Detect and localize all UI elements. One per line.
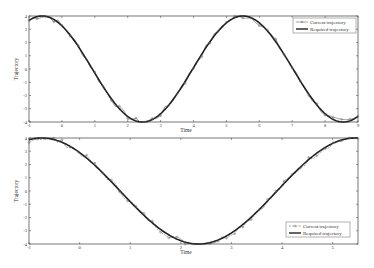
top-plot-panel: -1012345678943210-1-2-3-4 Time Trajector… xyxy=(13,14,360,134)
bottom-plot-panel: -101234543210-1-2-3-4 Time Trajectory Cu… xyxy=(13,136,359,256)
top-legend-current-label: Current trajectory xyxy=(310,20,346,25)
current-trajectory-marker xyxy=(143,212,145,214)
bottom-legend: Current trajectory Required trajectory xyxy=(286,222,350,237)
x-tick-label: 2 xyxy=(127,123,129,128)
y-tick-label: -3 xyxy=(23,228,27,233)
y-tick-label: 0 xyxy=(25,189,28,194)
current-trajectory-marker xyxy=(160,231,162,233)
top-x-axis-label: Time xyxy=(180,127,192,133)
top-legend-required-label: Required trajectory xyxy=(310,27,349,32)
y-tick-label: -3 xyxy=(23,106,27,111)
x-tick-label: 6 xyxy=(258,123,261,128)
y-tick-label: 4 xyxy=(25,136,28,141)
trajectory-figure: -1012345678943210-1-2-3-4 Time Trajector… xyxy=(0,0,374,268)
y-tick-label: 3 xyxy=(25,27,28,32)
current-trajectory-marker xyxy=(151,220,153,222)
x-tick-label: 5 xyxy=(332,245,335,250)
y-tick-label: 3 xyxy=(25,149,28,154)
bottom-y-axis-label: Trajectory xyxy=(13,179,19,202)
bottom-legend-required-label: Required trajectory xyxy=(303,231,342,236)
y-tick-label: 2 xyxy=(25,40,27,45)
top-legend: Current trajectory Required trajectory xyxy=(293,18,356,33)
y-tick-label: 4 xyxy=(25,14,28,19)
x-tick-label: 4 xyxy=(281,245,284,250)
y-tick-label: -2 xyxy=(23,93,27,98)
y-tick-label: 0 xyxy=(25,67,28,72)
x-tick-label: 0 xyxy=(78,245,81,250)
x-tick-label: 3 xyxy=(159,123,162,128)
current-trajectory-marker xyxy=(127,200,129,202)
y-tick-label: -1 xyxy=(23,202,27,207)
x-tick-label: 1 xyxy=(129,245,131,250)
y-tick-label: -2 xyxy=(23,215,27,220)
y-tick-label: -1 xyxy=(23,80,27,85)
y-tick-label: 2 xyxy=(25,162,27,167)
x-tick-label: 3 xyxy=(230,245,233,250)
x-tick-label: -1 xyxy=(27,245,31,250)
bottom-x-axis-label: Time xyxy=(180,249,192,255)
top-y-axis-label: Trajectory xyxy=(13,57,19,80)
y-tick-label: 1 xyxy=(25,175,27,180)
x-tick-label: -1 xyxy=(27,123,31,128)
x-tick-label: 8 xyxy=(324,123,327,128)
y-tick-label: 1 xyxy=(25,53,27,58)
x-tick-label: 4 xyxy=(192,123,195,128)
x-tick-label: 0 xyxy=(61,123,64,128)
x-tick-label: 5 xyxy=(225,123,228,128)
x-tick-label: 9 xyxy=(357,123,360,128)
bottom-legend-current-label: Current trajectory xyxy=(303,224,339,229)
x-tick-label: 7 xyxy=(291,123,294,128)
x-tick-label: 1 xyxy=(94,123,96,128)
